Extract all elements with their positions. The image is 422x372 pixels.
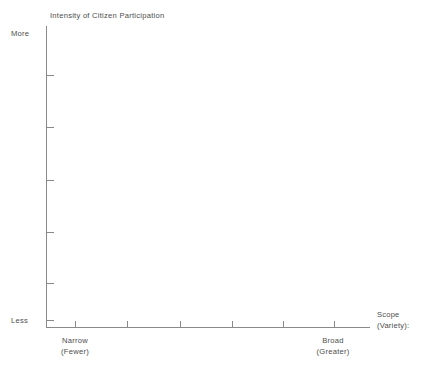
x-axis-title-line2: (Variety): [377, 321, 409, 332]
x-axis-tick [127, 321, 128, 327]
x-axis-title-line1: Scope [377, 310, 400, 319]
y-axis-label-more: More [11, 29, 29, 38]
x-axis-tick [283, 321, 284, 327]
y-axis-tick [47, 75, 54, 76]
chart-title: Intensity of Citizen Participation [50, 11, 164, 20]
y-axis-tick [47, 283, 54, 284]
x-axis-label-narrow-line1: Narrow [62, 336, 88, 345]
x-axis-label-broad: Broad (Greater) [306, 336, 360, 357]
y-axis-tick [47, 180, 54, 181]
x-axis-tick [180, 321, 181, 327]
chart-figure: Intensity of Citizen Participation More … [0, 0, 422, 372]
y-axis-label-less: Less [11, 316, 28, 325]
x-axis-label-broad-line1: Broad [322, 336, 344, 345]
plot-area [47, 26, 370, 327]
y-axis-tick [47, 232, 54, 233]
x-axis-line [46, 327, 370, 328]
x-axis-tick [75, 321, 76, 327]
y-axis-tick [47, 320, 54, 321]
x-axis-label-narrow: Narrow (Fewer) [48, 336, 102, 357]
y-axis-tick [47, 127, 54, 128]
x-axis-label-broad-line2: (Greater) [306, 347, 360, 358]
x-axis-tick [232, 321, 233, 327]
x-axis-title: Scope (Variety): [377, 310, 409, 331]
x-axis-label-narrow-line2: (Fewer) [48, 347, 102, 358]
x-axis-tick [334, 321, 335, 327]
